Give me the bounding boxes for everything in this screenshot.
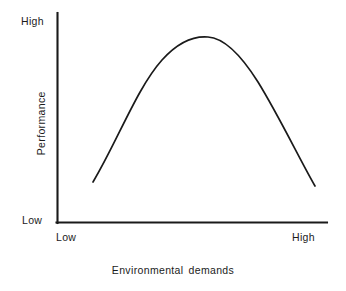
x-axis-title-word-1: Environmental	[112, 264, 184, 276]
x-axis-title-word-2: demands	[189, 264, 235, 276]
chart-figure: High Low Low High Performance Environmen…	[0, 0, 346, 291]
y-axis-tick-high: High	[21, 16, 44, 27]
x-axis-tick-high: High	[292, 232, 315, 243]
y-axis-tick-low: Low	[22, 215, 42, 226]
chart-plot-area	[0, 0, 346, 291]
y-axis-title: Performance	[36, 78, 47, 168]
x-axis-tick-low: Low	[56, 232, 76, 243]
performance-curve	[93, 37, 315, 186]
x-axis-title: Environmentaldemands	[0, 265, 346, 276]
